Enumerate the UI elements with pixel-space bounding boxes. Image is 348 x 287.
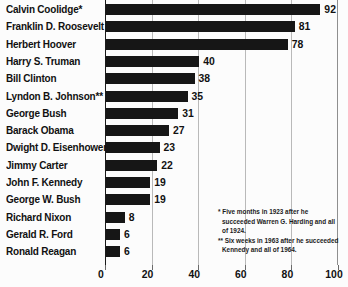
bar-row: John F. Kennedy19 — [0, 174, 348, 191]
bar — [106, 108, 178, 119]
bar-row: George Bush31 — [0, 105, 348, 122]
bar-row: Herbert Hoover78 — [0, 36, 348, 53]
bar-category-label: Jimmy Carter — [6, 157, 67, 174]
bar-value-label: 31 — [182, 105, 194, 122]
bar-category-label: Richard Nixon — [6, 209, 71, 226]
bar-chart: Calvin Coolidge*92Franklin D. Roosevelt8… — [0, 0, 348, 287]
bar-category-label: Calvin Coolidge* — [6, 1, 82, 18]
bar — [106, 91, 188, 102]
bar — [106, 142, 160, 153]
bar — [106, 160, 157, 171]
bar-value-label: 40 — [203, 53, 215, 70]
bar-value-label: 19 — [154, 191, 166, 208]
bar-category-label: Bill Clinton — [6, 70, 56, 87]
bar — [106, 4, 320, 15]
bar — [106, 177, 150, 188]
bar-category-label: John F. Kennedy — [6, 174, 82, 191]
bar — [106, 21, 295, 32]
bar-row: Harry S. Truman40 — [0, 53, 348, 70]
bar-value-label: 6 — [124, 243, 130, 260]
footnote-single-asterisk: * Five months in 1923 after he succeeded… — [218, 207, 342, 236]
bar-value-label: 81 — [299, 18, 311, 35]
footnote-double-asterisk: ** Six weeks in 1963 after he succeeded … — [218, 236, 342, 255]
bar-row: George W. Bush19 — [0, 191, 348, 208]
x-tick-label: 100 — [325, 269, 342, 280]
bar-row: Barack Obama27 — [0, 122, 348, 139]
bar-value-label: 8 — [129, 209, 135, 226]
bar-value-label: 27 — [173, 122, 185, 139]
bar-value-label: 22 — [161, 157, 173, 174]
bar-value-label: 19 — [154, 174, 166, 191]
bar-category-label: George W. Bush — [6, 191, 80, 208]
bar-category-label: Franklin D. Roosevelt — [6, 18, 104, 35]
bar-category-label: Barack Obama — [6, 122, 74, 139]
bar-row: Lyndon B. Johnson**35 — [0, 88, 348, 105]
x-tick-label: 20 — [142, 269, 154, 280]
x-axis: 020406080100 — [105, 265, 338, 287]
bar — [106, 39, 288, 50]
bar — [106, 56, 199, 67]
x-tick-label: 80 — [282, 269, 294, 280]
bar-row: Franklin D. Roosevelt81 — [0, 18, 348, 35]
bar-value-label: 35 — [192, 88, 204, 105]
bar-value-label: 23 — [164, 139, 176, 156]
bar — [106, 229, 120, 240]
x-tick-label: 40 — [188, 269, 200, 280]
bar — [106, 246, 120, 257]
bar-category-label: Herbert Hoover — [6, 36, 76, 53]
bar — [106, 194, 150, 205]
bar-row: Jimmy Carter22 — [0, 157, 348, 174]
x-tick-label: 0 — [98, 269, 104, 280]
bar-category-label: Dwight D. Eisenhower — [6, 139, 107, 156]
bar-value-label: 92 — [324, 1, 336, 18]
bar-category-label: George Bush — [6, 105, 67, 122]
bar-row: Dwight D. Eisenhower23 — [0, 139, 348, 156]
bar-value-label: 6 — [124, 226, 130, 243]
bar-category-label: Ronald Reagan — [6, 243, 76, 260]
bar — [106, 212, 125, 223]
bar-category-label: Harry S. Truman — [6, 53, 80, 70]
bar-category-label: Lyndon B. Johnson** — [6, 88, 103, 105]
x-tick-label: 60 — [235, 269, 247, 280]
x-tick-mark — [105, 265, 106, 270]
bar-row: Calvin Coolidge*92 — [0, 1, 348, 18]
bar — [106, 125, 169, 136]
bar-value-label: 38 — [199, 70, 211, 87]
bar-row: Bill Clinton38 — [0, 70, 348, 87]
bar — [106, 73, 195, 84]
footnote-block: * Five months in 1923 after he succeeded… — [218, 207, 342, 255]
bar-value-label: 78 — [292, 36, 304, 53]
bar-category-label: Gerald R. Ford — [6, 226, 73, 243]
